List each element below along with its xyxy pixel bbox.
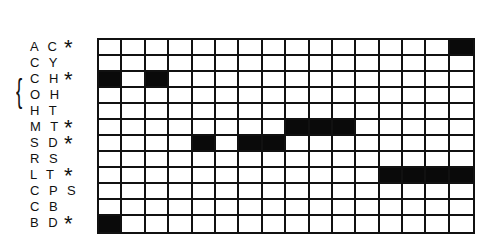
- grid-cell-bd-3: [146, 216, 169, 232]
- grid-cell-cy-6: [216, 56, 239, 72]
- grid-cell-ch-16: [450, 72, 473, 88]
- grid-cell-cb-11: [333, 200, 356, 216]
- grid-cell-ac-10: [310, 40, 333, 56]
- grid-cell-ac-3: [146, 40, 169, 56]
- grid-cell-rs-9: [286, 152, 309, 168]
- row-label-lt: L T *: [0, 166, 96, 182]
- grid-cell-sd-11: [333, 136, 356, 152]
- grid-cell-oh-15: [426, 88, 449, 104]
- row-label-text: C B: [30, 199, 61, 215]
- grid-cell-cb-6: [216, 200, 239, 216]
- grid-cell-cps-16: [450, 184, 473, 200]
- grid-cell-ac-12: [356, 40, 379, 56]
- grid-cell-ch-9: [286, 72, 309, 88]
- grid-cell-cy-3: [146, 56, 169, 72]
- grid-cell-ch-8: [263, 72, 286, 88]
- filled-cell-sd-5: [193, 136, 216, 152]
- grid-cell-mt-14: [403, 120, 426, 136]
- grid-cell-rs-3: [146, 152, 169, 168]
- grid-cell-rs-13: [380, 152, 403, 168]
- grid-cell-lt-6: [216, 168, 239, 184]
- grid-cell-cy-4: [169, 56, 192, 72]
- grid-cell-cb-15: [426, 200, 449, 216]
- grid-cell-cb-4: [169, 200, 192, 216]
- grid-cell-cb-5: [193, 200, 216, 216]
- filled-cell-mt-10: [310, 120, 333, 136]
- grid-cell-oh-10: [310, 88, 333, 104]
- grid-cell-mt-6: [216, 120, 239, 136]
- filled-cell-ch-1: [99, 72, 122, 88]
- grid-cell-lt-4: [169, 168, 192, 184]
- grid-cell-ac-14: [403, 40, 426, 56]
- grid-cell-ch-2: [122, 72, 145, 88]
- grid-cell-cps-12: [356, 184, 379, 200]
- grid-cell-lt-1: [99, 168, 122, 184]
- grid-cell-ac-5: [193, 40, 216, 56]
- grid-cell-rs-16: [450, 152, 473, 168]
- grid-cell-ac-4: [169, 40, 192, 56]
- grid-cell-rs-2: [122, 152, 145, 168]
- grid-cell-rs-8: [263, 152, 286, 168]
- grid-cell-ht-12: [356, 104, 379, 120]
- grid-cell-ch-6: [216, 72, 239, 88]
- grid-cell-ht-5: [193, 104, 216, 120]
- filled-cell-lt-15: [426, 168, 449, 184]
- grid-cell-ht-6: [216, 104, 239, 120]
- filled-cell-sd-8: [263, 136, 286, 152]
- grid-cell-lt-11: [333, 168, 356, 184]
- grid-cell-cy-5: [193, 56, 216, 72]
- grid-cell-lt-12: [356, 168, 379, 184]
- grid-cell-cps-14: [403, 184, 426, 200]
- grid-cell-cy-7: [239, 56, 262, 72]
- grid-cell-ac-15: [426, 40, 449, 56]
- grid-cell-cb-13: [380, 200, 403, 216]
- grid-cell-cb-3: [146, 200, 169, 216]
- grid-cell-bd-15: [426, 216, 449, 232]
- grid-cell-sd-1: [99, 136, 122, 152]
- grid-cell-cy-14: [403, 56, 426, 72]
- grid-cell-rs-11: [333, 152, 356, 168]
- grid-cell-cps-9: [286, 184, 309, 200]
- grid-cell-ac-2: [122, 40, 145, 56]
- grid-cell-lt-3: [146, 168, 169, 184]
- grid-cell-cps-1: [99, 184, 122, 200]
- filled-cell-ac-16: [450, 40, 473, 56]
- grid-cell-rs-10: [310, 152, 333, 168]
- grid-cell-cb-9: [286, 200, 309, 216]
- grid-cell-cy-13: [380, 56, 403, 72]
- grid-cell-ch-5: [193, 72, 216, 88]
- row-label-text: C H: [30, 71, 61, 87]
- row-label-ht: H T: [0, 102, 96, 118]
- grid-cell-cy-15: [426, 56, 449, 72]
- grid-cell-cps-7: [239, 184, 262, 200]
- grid-cell-oh-2: [122, 88, 145, 104]
- grid-cell-ht-7: [239, 104, 262, 120]
- grid-cell-ch-13: [380, 72, 403, 88]
- row-label-oh: O H: [0, 86, 96, 102]
- row-label-rs: R S: [0, 150, 96, 166]
- grid-cell-cb-10: [310, 200, 333, 216]
- grid-cell-ht-10: [310, 104, 333, 120]
- grid-cell-mt-5: [193, 120, 216, 136]
- grid-cell-ht-14: [403, 104, 426, 120]
- grid-cell-rs-12: [356, 152, 379, 168]
- grid-cell-oh-12: [356, 88, 379, 104]
- grid-cell-rs-14: [403, 152, 426, 168]
- grid-cell-ac-9: [286, 40, 309, 56]
- row-label-mt: M T *: [0, 118, 96, 134]
- grid-cell-sd-13: [380, 136, 403, 152]
- grid-cell-cb-8: [263, 200, 286, 216]
- grid-cell-lt-9: [286, 168, 309, 184]
- grid-cell-bd-5: [193, 216, 216, 232]
- grid-cell-oh-9: [286, 88, 309, 104]
- grid-cell-cy-16: [450, 56, 473, 72]
- grid-cell-cy-2: [122, 56, 145, 72]
- grid-cell-ht-11: [333, 104, 356, 120]
- grid-cell-rs-1: [99, 152, 122, 168]
- grid-cell-ht-1: [99, 104, 122, 120]
- row-label-text: S D: [30, 135, 61, 151]
- row-label-ch: C H *: [0, 70, 96, 86]
- row-label-cb: C B: [0, 198, 96, 214]
- grid-cell-cps-3: [146, 184, 169, 200]
- grid-cell-ac-8: [263, 40, 286, 56]
